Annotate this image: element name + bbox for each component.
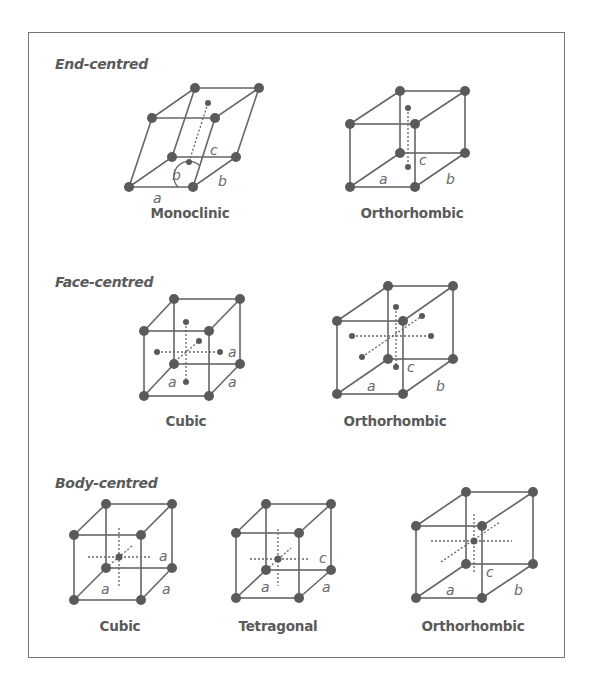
label-a: a <box>367 378 376 394</box>
label-a: a <box>261 579 270 595</box>
label-c: c <box>407 359 415 375</box>
label-a: a <box>153 190 162 206</box>
label-a: a <box>101 581 110 597</box>
label-c: c <box>210 142 218 158</box>
label-b: b <box>218 173 227 189</box>
label-a: a <box>322 579 331 595</box>
label-a: a <box>228 374 237 390</box>
bcc-tetragonal-cell-edges <box>236 504 331 598</box>
label-b: b <box>446 171 455 187</box>
bravais-lattices-diagram: a b b c a b c a a a a b c a a a a a c a … <box>0 0 590 675</box>
label-a: a <box>159 548 168 564</box>
bcc-cubic-cell-edges <box>74 504 172 600</box>
label-c: c <box>486 564 494 580</box>
label-a: a <box>168 374 177 390</box>
label-c: c <box>319 550 327 566</box>
label-beta: b <box>172 167 181 183</box>
label-a: a <box>228 344 237 360</box>
label-c: c <box>419 152 427 168</box>
label-a: a <box>446 582 455 598</box>
label-a: a <box>379 171 388 187</box>
label-a: a <box>162 581 171 597</box>
monoclinic-cell-edges <box>129 88 259 187</box>
label-b: b <box>514 582 523 598</box>
label-b: b <box>436 378 445 394</box>
